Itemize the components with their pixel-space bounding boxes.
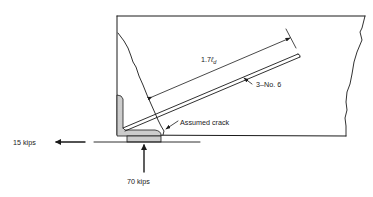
break-line: [345, 16, 365, 136]
bearing-angle: [117, 95, 161, 136]
diagram-canvas: 1.7ℓd 3–No. 6 Assumed crack 15 kips 70 k…: [0, 0, 373, 197]
bars-label: 3–No. 6: [256, 80, 281, 89]
crack-label: Assumed crack: [180, 118, 230, 127]
bearing-plate: [127, 136, 161, 142]
assumed-crack-line: [118, 33, 164, 135]
beam-outline: [117, 16, 365, 136]
crack-leader: [166, 121, 178, 129]
vertical-force-label: 70 kips: [127, 177, 150, 186]
development-length-label: 1.7ℓd: [201, 55, 217, 65]
dimension-tick: [286, 29, 296, 48]
horizontal-force-label: 15 kips: [13, 138, 36, 147]
